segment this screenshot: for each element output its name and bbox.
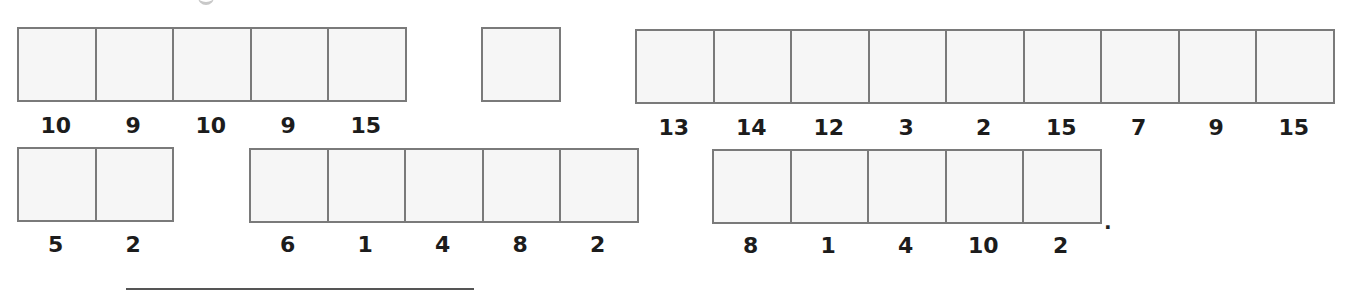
sentence-period: .	[1104, 210, 1112, 234]
answer-boxes	[17, 147, 174, 222]
number-label: 12	[790, 115, 868, 141]
code-group-f: 8 1 4 10 2	[712, 149, 1102, 259]
number-label: 2	[945, 115, 1023, 141]
answer-box[interactable]	[483, 29, 559, 100]
answer-box[interactable]	[1024, 151, 1100, 222]
answer-boxes	[17, 27, 407, 102]
answer-box[interactable]	[715, 31, 793, 102]
answer-box[interactable]	[251, 150, 329, 221]
number-labels: 8 1 4 10 2	[712, 233, 1102, 259]
number-labels: 10 9 10 9 15	[17, 113, 407, 139]
code-group-b	[481, 27, 561, 102]
number-label: 8	[482, 232, 560, 258]
answer-box[interactable]	[406, 150, 484, 221]
answer-box[interactable]	[97, 29, 175, 100]
number-label: 5	[17, 232, 95, 258]
answer-box[interactable]	[870, 31, 948, 102]
number-label: 9	[95, 113, 173, 139]
answer-box[interactable]	[1102, 31, 1180, 102]
answer-boxes	[635, 29, 1335, 104]
answer-box[interactable]	[561, 150, 637, 221]
answer-underline	[126, 288, 474, 290]
number-label: 2	[559, 232, 637, 258]
answer-box[interactable]	[1257, 31, 1333, 102]
number-label: 15	[1023, 115, 1101, 141]
answer-box[interactable]	[19, 29, 97, 100]
code-group-e: 6 1 4 8 2	[249, 148, 639, 258]
number-label: 14	[713, 115, 791, 141]
answer-box[interactable]	[484, 150, 562, 221]
number-label: 3	[868, 115, 946, 141]
number-label: 10	[172, 113, 250, 139]
answer-boxes	[712, 149, 1102, 224]
number-label: 9	[250, 113, 328, 139]
answer-box[interactable]	[329, 29, 405, 100]
answer-box[interactable]	[252, 29, 330, 100]
number-labels: 13 14 12 3 2 15 7 9 15	[635, 115, 1335, 141]
answer-boxes	[481, 27, 561, 102]
code-group-c: 13 14 12 3 2 15 7 9 15	[635, 29, 1335, 141]
number-label: 7	[1100, 115, 1178, 141]
code-group-a: 10 9 10 9 15	[17, 27, 407, 139]
answer-box[interactable]	[869, 151, 947, 222]
number-label: 2	[95, 232, 173, 258]
answer-box[interactable]	[19, 149, 97, 220]
answer-box[interactable]	[97, 149, 173, 220]
answer-box[interactable]	[174, 29, 252, 100]
number-label: 2	[1022, 233, 1100, 259]
answer-box[interactable]	[714, 151, 792, 222]
number-label: 4	[404, 232, 482, 258]
answer-box[interactable]	[637, 31, 715, 102]
number-label: 10	[945, 233, 1023, 259]
answer-box[interactable]	[1025, 31, 1103, 102]
answer-box[interactable]	[329, 150, 407, 221]
answer-box[interactable]	[947, 31, 1025, 102]
number-label: 15	[1255, 115, 1333, 141]
number-label: 1	[327, 232, 405, 258]
answer-boxes	[249, 148, 639, 223]
number-label: 8	[712, 233, 790, 259]
code-group-d: 5 2	[17, 147, 174, 258]
number-label: 4	[867, 233, 945, 259]
answer-box[interactable]	[792, 31, 870, 102]
number-labels: 6 1 4 8 2	[249, 232, 639, 258]
number-label: 15	[327, 113, 405, 139]
answer-box[interactable]	[1180, 31, 1258, 102]
number-label: 9	[1178, 115, 1256, 141]
number-label: 6	[249, 232, 327, 258]
clipped-top-glyph	[198, 0, 214, 5]
number-label: 1	[790, 233, 868, 259]
answer-box[interactable]	[947, 151, 1025, 222]
number-label: 10	[17, 113, 95, 139]
number-labels: 5 2	[17, 232, 174, 258]
answer-box[interactable]	[792, 151, 870, 222]
number-label: 13	[635, 115, 713, 141]
